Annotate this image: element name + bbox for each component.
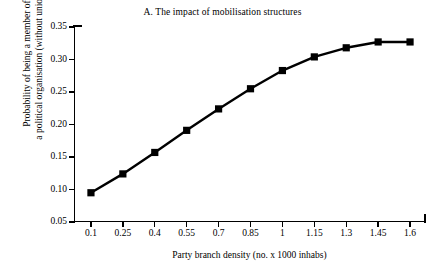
y-axis-tick-label: 0.20 — [50, 120, 67, 130]
x-axis-tick-label: 0.25 — [115, 229, 132, 239]
data-point-marker — [215, 105, 222, 112]
series-markers — [87, 38, 413, 196]
series-line — [91, 42, 410, 193]
data-point-marker — [311, 53, 318, 60]
y-axis-tick-label: 0.10 — [50, 185, 67, 195]
plot-area: 0.350.300.250.200.150.100.05 0.10.250.40… — [74, 27, 425, 222]
data-point-marker — [151, 149, 158, 156]
x-axis-tick-label: 0.4 — [149, 229, 161, 239]
x-axis-tick-label: 1.45 — [370, 229, 387, 239]
data-point-marker — [406, 38, 413, 45]
chart-page: A. The impact of mobilisation structures… — [0, 0, 445, 271]
x-axis-title: Party branch density (no. x 1000 inhabs) — [74, 250, 425, 260]
x-axis-tick-label: 1.3 — [340, 229, 352, 239]
y-axis-tick-label: 0.15 — [50, 152, 67, 162]
data-point-marker — [375, 38, 382, 45]
data-point-marker — [119, 170, 126, 177]
x-axis-tick-label: 0.7 — [213, 229, 225, 239]
data-point-marker — [87, 189, 94, 196]
y-axis-title: Probability of being a member of a polit… — [22, 0, 45, 159]
y-axis-title-line-1: Probability of being a member of — [22, 0, 34, 159]
x-axis-tick-label: 0.85 — [242, 229, 259, 239]
y-axis-title-line-2: a political organisation (without unions… — [33, 0, 45, 159]
y-axis-tick-label: 0.05 — [50, 217, 67, 227]
y-axis-tick-label: 0.25 — [50, 87, 67, 97]
data-point-marker — [279, 67, 286, 74]
data-point-marker — [183, 127, 190, 134]
x-axis-tick-label: 1 — [280, 229, 285, 239]
data-point-marker — [247, 85, 254, 92]
x-axis-tick-label: 1.6 — [404, 229, 416, 239]
x-axis-tick-label: 0.1 — [85, 229, 97, 239]
chart-title: A. The impact of mobilisation structures — [0, 7, 445, 17]
data-point-marker — [343, 44, 350, 51]
data-series-layer — [75, 27, 426, 222]
y-axis-tick-label: 0.35 — [50, 22, 67, 32]
y-axis-tick-label: 0.30 — [50, 55, 67, 65]
x-axis-tick-label: 0.55 — [178, 229, 195, 239]
x-axis-tick-label: 1.15 — [306, 229, 323, 239]
